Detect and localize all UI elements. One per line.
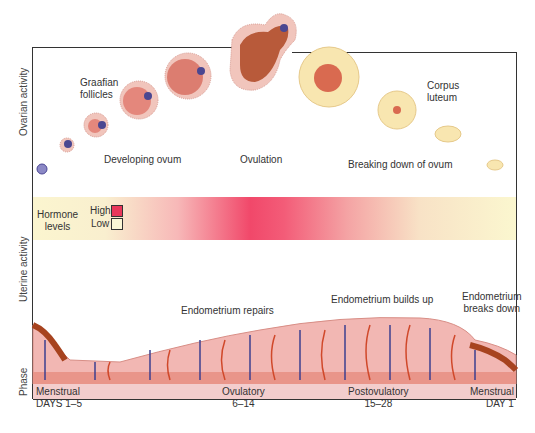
phase-menstrual-end: Menstrual DAY 1 [470,386,514,410]
phase-days: 15–28 [348,398,409,410]
phase-name: Postovulatory [348,386,409,398]
phase-menstrual-start: Menstrual DAYS 1–5 [36,386,82,410]
label-developing-ovum: Developing ovum [104,154,181,166]
label-graafian-line1: Graafian [80,77,118,89]
legend-low-label: Low [91,218,109,230]
legend-high-swatch [111,205,123,217]
phase-bar [33,384,516,400]
phase-days: DAYS 1–5 [36,398,82,410]
label-corpus-line2: luteum [427,92,459,104]
legend-low-swatch [111,218,123,230]
label-ovulation: Ovulation [240,154,282,166]
phase-name: Menstrual [470,386,514,398]
phase-ovulatory: Ovulatory 6–14 [222,386,265,410]
axis-uterine-activity: Uterine activity [18,236,29,302]
label-hormone-line1: Hormone [37,209,78,221]
phase-postovulatory: Postovulatory 15–28 [348,386,409,410]
phase-name: Menstrual [36,386,82,398]
label-graafian-line2: follicles [80,89,118,101]
label-corpus-luteum: Corpus luteum [427,80,459,104]
phase-days: DAY 1 [470,398,514,410]
phase-days: 6–14 [222,398,265,410]
phase-name: Ovulatory [222,386,265,398]
label-corpus-line1: Corpus [427,80,459,92]
legend-high-label: High [90,205,111,217]
label-graafian: Graafian follicles [80,77,118,101]
label-hormone-levels: Hormone levels [37,209,78,233]
label-breaking-down: Breaking down of ovum [348,159,453,171]
label-hormone-line2: levels [37,221,78,233]
